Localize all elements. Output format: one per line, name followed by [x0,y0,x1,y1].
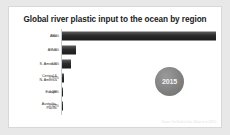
bar-row: S. America4.8% [9,57,222,71]
bar [62,60,71,69]
bar [62,46,76,55]
bar-row: Europe0.28% [9,85,222,99]
bar-row-value: 0.95% [43,76,59,80]
bar-row: Central & N. America0.95% [9,71,222,85]
chart-card: Global river plastic input to the ocean … [8,6,222,128]
bar-row: Australia- Pacific0.02% [9,99,222,113]
bar [62,32,216,41]
bar-row: Africa7.8% [9,43,222,57]
year-badge: 2015 [155,67,184,96]
source-note: Source: Our World in Data / Meijer et al… [162,121,216,124]
bar-row-value: 0.28% [43,90,59,94]
bar-row-value: 7.8% [43,48,59,52]
bar-row-value: 86% [43,34,59,38]
plot-area: Asia86%Africa7.8%S. America4.8%Central &… [9,27,222,119]
chart-title: Global river plastic input to the ocean … [9,15,221,24]
bar [62,74,64,83]
bar-row-value: 4.8% [43,62,59,66]
year-badge-label: 2015 [162,78,177,85]
bar-row-value: 0.02% [43,104,59,108]
bar [62,102,63,111]
bar [62,88,63,97]
bar-row: Asia86% [9,29,222,43]
